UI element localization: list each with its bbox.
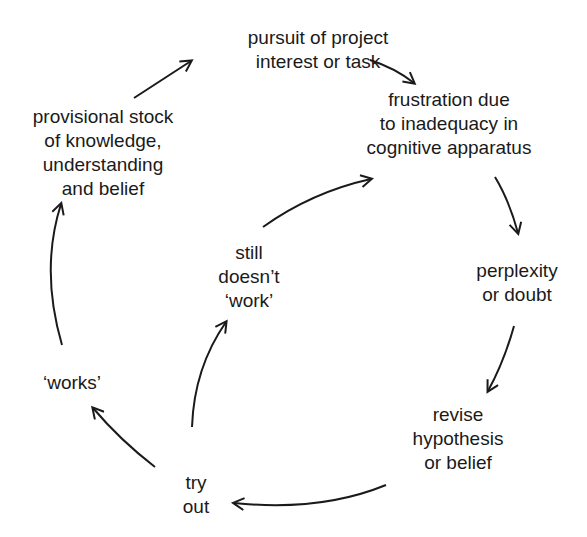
node-works: ‘works’ — [43, 371, 101, 395]
node-pursuit-of-project: pursuit of project interest or task — [248, 26, 388, 74]
node-line: pursuit of project — [248, 26, 388, 50]
arrow-revise-to-try-out — [234, 485, 386, 505]
node-line: ‘works’ — [43, 371, 101, 395]
node-still-doesnt-work: still doesn’t ‘work’ — [218, 241, 279, 313]
arrow-perplexity-to-revise — [488, 326, 514, 391]
node-provisional-stock: provisional stock of knowledge, understa… — [33, 105, 173, 201]
node-line: hypothesis — [413, 427, 504, 451]
node-line: or belief — [413, 451, 504, 475]
node-frustration: frustration due to inadequacy in cogniti… — [367, 88, 532, 160]
node-line: to inadequacy in — [367, 112, 532, 136]
node-line: ‘work’ — [218, 289, 279, 313]
node-line: still — [218, 241, 279, 265]
node-line: provisional stock — [33, 105, 173, 129]
node-line: out — [183, 495, 209, 519]
node-line: doesn’t — [218, 265, 279, 289]
node-try-out: try out — [183, 471, 209, 519]
node-line: or doubt — [476, 283, 557, 307]
learning-cycle-diagram: pursuit of project interest or task frus… — [0, 0, 587, 537]
arrow-works-to-provisional — [51, 204, 62, 345]
arrow-try-out-to-works — [93, 408, 155, 467]
node-line: revise — [413, 403, 504, 427]
node-line: and belief — [33, 177, 173, 201]
node-revise-hypothesis: revise hypothesis or belief — [413, 403, 504, 475]
node-line: understanding — [33, 153, 173, 177]
arrow-try-out-to-still-doesnt-work — [192, 322, 226, 427]
node-line: of knowledge, — [33, 129, 173, 153]
node-line: interest or task — [248, 50, 388, 74]
node-line: try — [183, 471, 209, 495]
arrow-provisional-to-pursuit — [134, 61, 191, 98]
arrow-still-doesnt-work-to-frustration — [263, 179, 371, 227]
arrow-frustration-to-perplexity — [495, 177, 518, 233]
node-perplexity-or-doubt: perplexity or doubt — [476, 259, 557, 307]
node-line: frustration due — [367, 88, 532, 112]
node-line: perplexity — [476, 259, 557, 283]
node-line: cognitive apparatus — [367, 136, 532, 160]
